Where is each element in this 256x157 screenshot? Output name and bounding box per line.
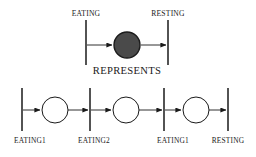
abstract-net-group [86,20,168,65]
label-transition-resting: RESTING [151,10,184,18]
label-transition-eating2: EATING2 [78,137,110,144]
represents-caption: REPRESENTS [93,66,161,77]
label-transition-eating: EATING [72,10,101,18]
place-circle-1 [42,97,68,123]
petri-net-drawing [0,0,256,157]
label-transition-eating1-b: EATING1 [157,137,189,144]
place-circle-2 [113,97,139,123]
label-transition-resting-bottom: RESTING [212,137,245,144]
label-transition-eating1-a: EATING1 [14,137,46,144]
place-circle-filled [114,32,140,58]
place-circle-3 [183,97,209,123]
refined-net-group [22,88,228,131]
petri-net-refinement-figure: EATING RESTING REPRESENTS EATING1 EATING… [0,0,256,157]
